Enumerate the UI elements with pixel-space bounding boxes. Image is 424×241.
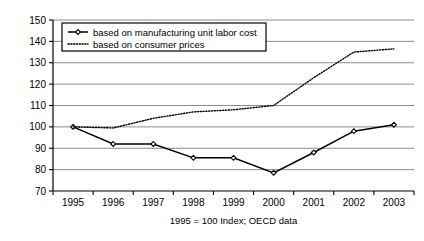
data-point-0-1996 xyxy=(111,142,116,147)
x-axis-label-2002: 2002 xyxy=(343,197,366,208)
data-point-0-1998 xyxy=(191,155,196,160)
data-point-0-1997 xyxy=(151,142,156,147)
series-line-0 xyxy=(73,125,394,173)
series-line-1 xyxy=(73,49,394,128)
legend-label-0: based on manufacturing unit labor cost xyxy=(93,27,257,38)
x-axis-label-2001: 2001 xyxy=(303,197,326,208)
y-axis-label-120: 120 xyxy=(29,79,46,90)
y-axis-label-140: 140 xyxy=(29,36,46,47)
x-axis-label-1998: 1998 xyxy=(182,197,205,208)
x-axis-label-1995: 1995 xyxy=(62,197,85,208)
legend-label-1: based on consumer prices xyxy=(93,39,205,50)
x-axis-label-1996: 1996 xyxy=(102,197,125,208)
x-axis-label-1997: 1997 xyxy=(142,197,165,208)
chart-container: 7080901001101201301401501995199619971998… xyxy=(0,0,424,241)
y-axis-label-80: 80 xyxy=(35,164,47,175)
x-axis-label-2003: 2003 xyxy=(383,197,406,208)
y-axis-label-110: 110 xyxy=(30,100,46,111)
data-point-0-1999 xyxy=(231,155,236,160)
y-axis-label-90: 90 xyxy=(35,143,47,154)
y-axis-label-70: 70 xyxy=(35,186,47,197)
y-axis-label-130: 130 xyxy=(29,57,46,68)
data-point-0-2003 xyxy=(392,122,397,127)
y-axis-label-150: 150 xyxy=(29,15,46,26)
line-chart: 7080901001101201301401501995199619971998… xyxy=(0,0,424,241)
y-axis-label-100: 100 xyxy=(29,121,46,132)
x-axis-label-1999: 1999 xyxy=(222,197,245,208)
chart-caption: 1995 = 100 Index; OECD data xyxy=(170,215,298,226)
x-axis-label-2000: 2000 xyxy=(262,197,285,208)
